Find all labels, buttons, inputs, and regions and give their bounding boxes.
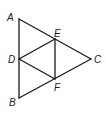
segment-df (19, 59, 55, 79)
label-f: F (54, 82, 61, 93)
label-c: C (94, 54, 102, 65)
label-e: E (54, 28, 61, 39)
label-a: A (6, 12, 14, 23)
segment-de (19, 39, 55, 59)
triangle-diagram: A B C D E F (0, 0, 106, 123)
label-d: D (8, 54, 15, 65)
label-b: B (9, 97, 16, 108)
